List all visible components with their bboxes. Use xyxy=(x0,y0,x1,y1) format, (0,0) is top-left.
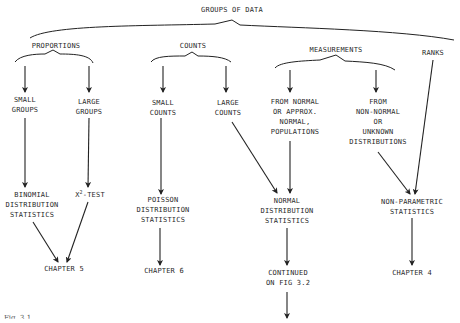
root-node-groups-of-data: GROUPS OF DATA xyxy=(201,5,263,15)
arrow-chisq-to-ch5 xyxy=(67,202,88,262)
node-chi-square-test: X2-TEST xyxy=(75,190,105,200)
category-proportions: PROPORTIONS xyxy=(32,41,81,51)
chi-square-suffix: -TEST xyxy=(83,191,105,199)
node-small-counts: SMALL COUNTS xyxy=(150,98,177,118)
node-chapter-4: CHAPTER 4 xyxy=(392,268,432,278)
node-large-groups: LARGE GROUPS xyxy=(76,97,103,117)
arrow-non-normal-to-nonparam xyxy=(378,152,410,194)
flowchart-diagram: GROUPS OF DATA PROPORTIONS COUNTS MEASUR… xyxy=(0,0,460,323)
proportions-brace xyxy=(15,50,93,63)
node-non-parametric-statistics: NON-PARAMETRIC STATISTICS xyxy=(381,197,443,217)
node-poisson-statistics: POISSON DISTRIBUTION STATISTICS xyxy=(137,195,190,225)
category-ranks: RANKS xyxy=(422,48,444,58)
arrow-large-groups-to-chisq xyxy=(88,118,89,187)
node-chapter-6: CHAPTER 6 xyxy=(144,266,184,276)
node-binomial-statistics: BINOMIAL DISTRIBUTION STATISTICS xyxy=(6,190,59,220)
node-from-non-normal-distributions: FROM NON-NORMAL OR UNKNOWN DISTRIBUTIONS xyxy=(349,97,406,147)
category-measurements: MEASUREMENTS xyxy=(310,45,363,55)
node-small-groups: SMALL GROUPS xyxy=(12,95,39,115)
node-large-counts: LARGE COUNTS xyxy=(215,98,242,118)
node-continued-fig-3-2: CONTINUED ON FIG 3.2 xyxy=(266,268,310,288)
root-brace xyxy=(30,20,454,40)
node-from-normal-populations: FROM NORMAL OR APPROX. NORMAL, POPULATIO… xyxy=(271,97,320,137)
arrow-binomial-to-ch5 xyxy=(33,222,58,262)
node-normal-statistics: NORMAL DISTRIBUTION STATISTICS xyxy=(261,196,314,226)
arrow-ranks-to-nonparam xyxy=(415,60,433,194)
counts-brace xyxy=(151,52,231,62)
node-chapter-5: CHAPTER 5 xyxy=(44,264,84,274)
measurements-brace xyxy=(275,55,395,70)
category-counts: COUNTS xyxy=(180,41,207,51)
